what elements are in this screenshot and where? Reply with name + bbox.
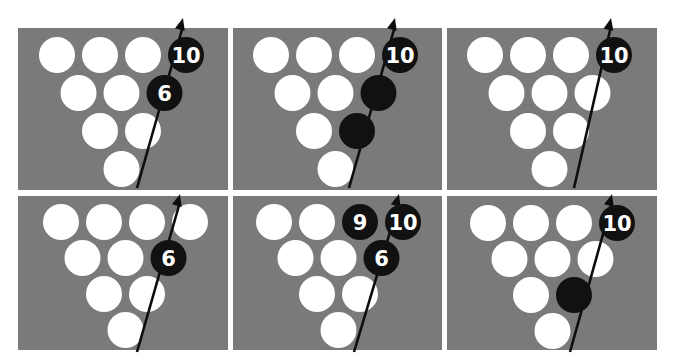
pin-5-standing bbox=[321, 240, 357, 276]
panel-bottom-left: 6 bbox=[18, 194, 228, 352]
pin-7-standing bbox=[467, 37, 503, 73]
pin-9-standing bbox=[129, 204, 165, 240]
pin-2-standing bbox=[86, 276, 122, 312]
pin-2-standing bbox=[513, 277, 549, 313]
pin-8-standing bbox=[513, 205, 549, 241]
pin-8-standing bbox=[510, 37, 546, 73]
pin-5-standing bbox=[104, 75, 140, 111]
pin-1-standing bbox=[321, 312, 357, 348]
panel-top-right: 10 bbox=[447, 18, 657, 190]
pin-3-highlighted bbox=[339, 113, 375, 149]
pin-7-standing bbox=[253, 37, 289, 73]
pin-2-standing bbox=[299, 276, 335, 312]
pin-4-standing bbox=[278, 240, 314, 276]
pin-number-label: 6 bbox=[374, 247, 389, 271]
pin-6-highlighted bbox=[361, 75, 397, 111]
panel-top-left: 106 bbox=[18, 18, 228, 190]
pin-8-standing bbox=[86, 204, 122, 240]
pin-8-standing bbox=[82, 37, 118, 73]
pin-number-label: 10 bbox=[385, 44, 414, 68]
panel-bottom-middle: 9106 bbox=[233, 194, 442, 352]
pin-number-label: 10 bbox=[602, 212, 631, 236]
pin-8-standing bbox=[296, 37, 332, 73]
pin-4-standing bbox=[492, 241, 528, 277]
pin-9-standing bbox=[339, 37, 375, 73]
pin-9-standing bbox=[553, 37, 589, 73]
panel-bottom-right: 10 bbox=[447, 194, 657, 352]
pin-3-highlighted bbox=[556, 277, 592, 313]
pin-5-standing bbox=[532, 75, 568, 111]
pin-number-label: 10 bbox=[599, 44, 628, 68]
pin-4-standing bbox=[489, 75, 525, 111]
pin-4-standing bbox=[61, 75, 97, 111]
pin-number-label: 10 bbox=[388, 211, 417, 235]
pin-1-standing bbox=[532, 151, 568, 187]
pin-5-standing bbox=[535, 241, 571, 277]
pin-8-standing bbox=[299, 204, 335, 240]
pin-1-standing bbox=[535, 313, 571, 349]
pin-2-standing bbox=[296, 113, 332, 149]
pin-4-standing bbox=[65, 240, 101, 276]
pin-number-label: 6 bbox=[157, 82, 172, 106]
pin-5-standing bbox=[318, 75, 354, 111]
pin-9-standing bbox=[125, 37, 161, 73]
pin-2-standing bbox=[510, 113, 546, 149]
bowling-pin-diagram: 10610106910610 bbox=[0, 0, 676, 360]
pin-number-label: 10 bbox=[171, 44, 200, 68]
pin-number-label: 6 bbox=[161, 247, 176, 271]
pin-1-standing bbox=[108, 312, 144, 348]
pin-2-standing bbox=[82, 113, 118, 149]
pin-7-standing bbox=[256, 204, 292, 240]
pin-4-standing bbox=[275, 75, 311, 111]
panel-top-middle: 10 bbox=[233, 18, 442, 190]
pin-1-standing bbox=[104, 151, 140, 187]
pin-number-label: 9 bbox=[353, 211, 368, 235]
pin-7-standing bbox=[470, 205, 506, 241]
arrow-head-icon bbox=[604, 18, 614, 31]
pin-7-standing bbox=[43, 204, 79, 240]
pin-7-standing bbox=[39, 37, 75, 73]
pin-3-standing bbox=[129, 276, 165, 312]
pin-1-standing bbox=[318, 151, 354, 187]
pin-5-standing bbox=[108, 240, 144, 276]
pin-9-standing bbox=[556, 205, 592, 241]
